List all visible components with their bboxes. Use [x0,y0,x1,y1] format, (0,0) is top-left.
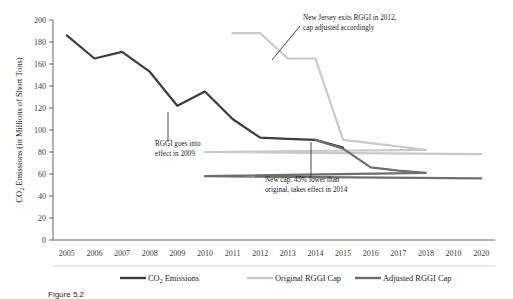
annotation-text-nj-exit: New Jersey exits RGGI in 2012,cap adjust… [303,14,397,32]
y-tick-label: 200 [34,16,46,25]
y-axis-ticks: 020406080100120140160180200 [34,16,53,245]
x-axis-ticks: 2005200620072008200920102011201220132014… [59,249,489,258]
x-tick-label: 2015 [335,249,351,258]
annotation-text-new-cap: New cap, 45% lower thanoriginal, takes e… [265,176,348,194]
annotation-line: New Jersey exits RGGI in 2012, [303,14,397,22]
annotation-layer: RGGI goes intoeffect in 2009New Jersey e… [155,14,397,194]
series-line-co2-emissions [67,35,343,147]
series-line-adjusted-rggi-cap [205,140,481,179]
legend-label-prefix: CO [148,274,160,283]
y-tick-label: 120 [34,104,46,113]
x-tick-label: 2008 [142,249,158,258]
annotation-line: original, takes effect in 2014 [265,186,348,194]
x-tick-label: 2017 [390,249,406,258]
legend-label-suffix: Emissions [163,274,200,283]
annotation-text-rggi-effect: RGGI goes intoeffect in 2009 [155,140,201,158]
x-tick-label: 2007 [114,249,130,258]
y-tick-label: 80 [38,148,46,157]
x-tick-label: 2013 [280,249,296,258]
annotation-line: RGGI goes into [155,140,201,148]
figure-container: CO2 Emissions (in Millions of Short Tons… [0,0,513,299]
x-tick-label: 2020 [473,249,489,258]
svg-text:CO2 Emissions (in Millions of: CO2 Emissions (in Millions of Short Tons… [14,57,25,203]
y-axis-title-prefix: CO [14,191,24,203]
x-tick-label: 2010 [197,249,213,258]
chart-svg: CO2 Emissions (in Millions of Short Tons… [0,0,513,299]
legend-label-0: CO2 Emissions [148,274,199,284]
series-layer [67,33,481,178]
y-tick-label: 20 [38,214,46,223]
figure-caption-text: Figure 5.2 [48,290,85,299]
y-tick-label: 100 [34,126,46,135]
x-tick-label: 2018 [418,249,434,258]
x-tick-label: 2016 [363,249,379,258]
annotation-leader-nj-exit [272,26,300,60]
series-line-original-rggi-cap [205,33,481,154]
x-tick-label: 2010 [446,249,462,258]
legend-label-1: Original RGGI Cap [275,274,341,283]
figure-caption: Figure 5.2 [48,290,85,299]
y-tick-label: 60 [38,170,46,179]
x-tick-label: 2014 [307,249,323,258]
y-axis-title-suffix: Emissions (in Millions of Short Tons) [14,57,24,188]
x-tick-label: 2009 [169,249,185,258]
y-tick-label: 180 [34,38,46,47]
annotation-line: cap adjusted accordingly [303,24,375,32]
x-tick-label: 2005 [59,249,75,258]
annotation-line: effect in 2009 [155,150,195,158]
y-axis-title: CO2 Emissions (in Millions of Short Tons… [14,57,25,203]
y-tick-label: 0 [42,236,46,245]
y-tick-label: 40 [38,192,46,201]
x-tick-label: 2011 [225,249,241,258]
chart-legend: CO2 EmissionsOriginal RGGI CapAdjusted R… [120,274,451,284]
y-tick-label: 160 [34,60,46,69]
annotation-line: New cap, 45% lower than [265,176,340,184]
x-tick-label: 2006 [86,249,102,258]
y-tick-label: 140 [34,82,46,91]
legend-label-2: Adjusted RGGI Cap [383,274,451,283]
x-tick-label: 2012 [252,249,268,258]
